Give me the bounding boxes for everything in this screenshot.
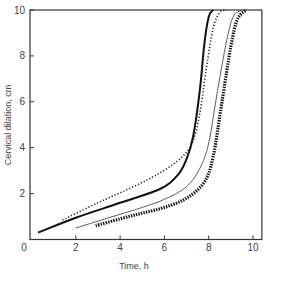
labor-curve-chart: 246810 246810 Cervical dilation, cm Time… [0, 0, 284, 298]
x-axis-ticks: 246810 [73, 236, 259, 254]
y-tick-label: 4 [19, 142, 25, 153]
y-axis-ticks: 246810 [14, 5, 34, 200]
y-axis-title: Cervical dilation, cm [3, 85, 13, 166]
y-tick-label: 6 [19, 96, 25, 107]
series-layer [38, 10, 246, 233]
y-tick-label: 8 [19, 50, 25, 61]
plot-frame [30, 10, 262, 240]
x-tick-label: 2 [73, 242, 79, 253]
x-tick-label: 4 [117, 242, 123, 253]
x-tick-label: 10 [247, 242, 259, 253]
series-thin-solid [76, 10, 242, 228]
plot-border [30, 10, 262, 240]
x-tick-label: 8 [206, 242, 212, 253]
x-tick-label: 6 [162, 242, 168, 253]
origin-label: 0 [21, 242, 27, 253]
y-tick-label: 10 [14, 5, 26, 16]
y-tick-label: 2 [19, 188, 25, 199]
series-fine-dotted [63, 10, 227, 220]
x-axis-title: Time, h [119, 261, 149, 271]
